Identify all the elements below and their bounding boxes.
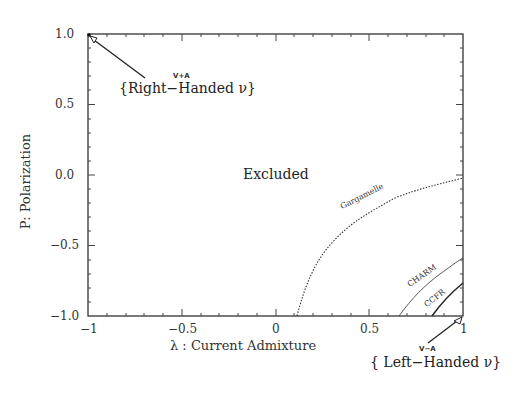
- left-handed-label: { Left−Handed ν}: [370, 354, 501, 370]
- left-handed-pointer: [428, 317, 462, 343]
- y-tick-label: 0.5: [55, 97, 74, 111]
- right-handed-pointer: [87, 33, 145, 78]
- x-tick-label: −1: [80, 322, 98, 336]
- v-plus-a-label: V+A: [173, 72, 190, 80]
- y-axis-title: P: Polarization: [18, 122, 33, 242]
- excluded-region-label: Excluded: [243, 166, 309, 182]
- v-minus-a-label: V−A: [419, 345, 436, 353]
- y-tick-label: −0.5: [50, 238, 79, 252]
- x-tick-label: 0.5: [360, 322, 379, 336]
- x-tick-label: 1: [460, 322, 468, 336]
- y-tick-label: −1.0: [50, 309, 79, 323]
- x-axis-title: λ : Current Admixture: [170, 338, 316, 353]
- y-tick-label: 0.0: [55, 168, 74, 182]
- right-handed-label: {Right−Handed ν}: [119, 80, 256, 96]
- x-tick-label: 0: [272, 322, 280, 336]
- plot-area: [0, 0, 523, 395]
- y-tick-label: 1.0: [55, 27, 74, 41]
- x-tick-label: −0.5: [168, 322, 197, 336]
